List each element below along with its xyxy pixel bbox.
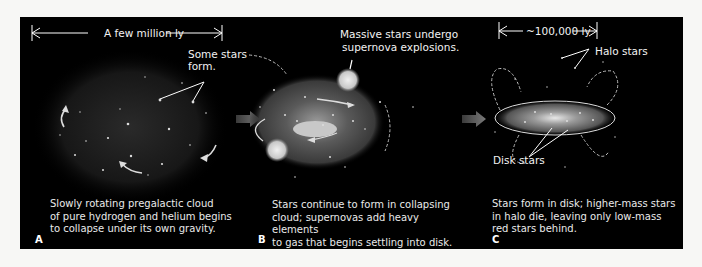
- annotation-disk-stars: Disk stars: [493, 154, 545, 167]
- stage-letter-a: A: [35, 234, 43, 245]
- annotation-form: form.: [188, 60, 216, 73]
- caption-a: Slowly rotating pregalactic cloud of pur…: [50, 198, 232, 236]
- scale-label-a: A few million ly: [104, 27, 184, 40]
- galaxy-formation-diagram: A few million ly Some stars form. Slowly…: [20, 17, 683, 249]
- scale-label-c: ~100,000 ly: [526, 25, 591, 38]
- stage-a: A few million ly Some stars form. Slowly…: [20, 17, 235, 249]
- stage-c: ~100,000 ly Halo stars Disk stars Stars …: [455, 17, 683, 249]
- caption-c: Stars form in disk; higher-mass stars in…: [492, 198, 675, 236]
- stage-letter-c: C: [492, 234, 499, 245]
- caption-b: Stars continue to form in collapsing clo…: [272, 199, 455, 249]
- annotation-halo-stars: Halo stars: [595, 45, 648, 58]
- annotation-massive-stars: Massive stars undergo: [340, 28, 458, 41]
- stage-letter-b: B: [258, 234, 266, 245]
- annotation-supernova: supernova explosions.: [342, 41, 459, 54]
- stage-b: Massive stars undergo supernova explosio…: [235, 17, 455, 249]
